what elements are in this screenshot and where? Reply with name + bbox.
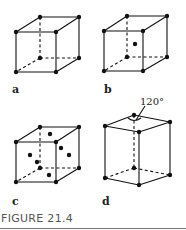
panel-label-a: a xyxy=(12,83,19,96)
corner-atom xyxy=(141,29,145,33)
corner-atom xyxy=(137,183,141,187)
face-center-atom xyxy=(67,153,71,157)
corner-atom xyxy=(165,55,169,59)
corner-atom xyxy=(137,130,141,134)
corner-atom xyxy=(54,30,58,34)
corner-atom xyxy=(102,29,106,33)
panel-label-b: b xyxy=(104,83,112,96)
face-center-atom xyxy=(59,146,63,150)
corner-atom xyxy=(168,120,172,124)
panel-c-face-centered-cubic: c xyxy=(12,125,81,208)
angle-annotation: 120° xyxy=(140,96,164,107)
corner-atom xyxy=(54,70,58,74)
corner-atom xyxy=(38,56,42,60)
corner-atom xyxy=(77,125,81,129)
corner-atom xyxy=(14,140,18,144)
corner-atom xyxy=(125,14,129,18)
corner-atom xyxy=(38,166,42,170)
corner-atom xyxy=(14,70,18,74)
corner-atom xyxy=(54,180,58,184)
crystal-lattice-figure: a b xyxy=(0,0,186,230)
panel-label-c: c xyxy=(12,195,19,208)
corner-atom xyxy=(168,173,172,177)
panel-d-hexagonal: 120° d xyxy=(102,96,172,208)
body-center-atom xyxy=(133,42,137,46)
face-center-atom xyxy=(47,173,51,177)
corner-atom xyxy=(38,125,42,129)
figure-caption: FIGURE 21.4 xyxy=(1,212,73,225)
corner-atom xyxy=(102,69,106,73)
face-center-atom xyxy=(48,132,52,136)
corner-atom xyxy=(14,30,18,34)
face-center-atom xyxy=(35,160,39,164)
corner-atom xyxy=(54,140,58,144)
face-center-atom xyxy=(28,153,32,157)
corner-atom xyxy=(165,14,169,18)
corner-atom xyxy=(77,56,81,60)
panel-a-simple-cubic: a xyxy=(12,15,81,96)
angle-arc xyxy=(128,118,141,121)
corner-atom xyxy=(38,15,42,19)
caption-rule xyxy=(0,228,186,229)
corner-atom xyxy=(103,124,107,128)
panel-b-body-centered-cubic: b xyxy=(102,14,169,96)
panel-label-d: d xyxy=(102,195,110,208)
corner-atom xyxy=(132,166,136,170)
corner-atom xyxy=(77,15,81,19)
corner-atom xyxy=(14,180,18,184)
corner-atom xyxy=(141,69,145,73)
corner-atom xyxy=(125,55,129,59)
corner-atom xyxy=(132,113,136,117)
corner-atom xyxy=(103,176,107,180)
corner-atom xyxy=(77,166,81,170)
